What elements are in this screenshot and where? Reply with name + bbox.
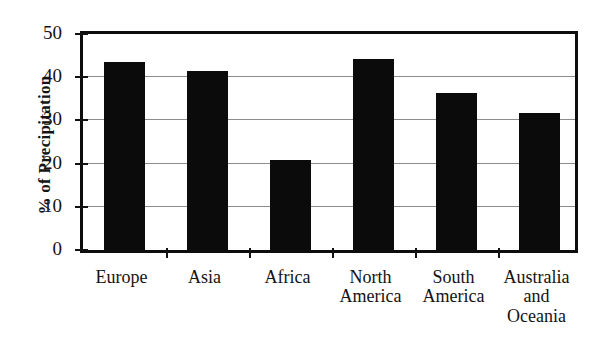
- y-axis-tick-label: 0: [53, 238, 63, 260]
- x-axis-tick: [166, 248, 168, 258]
- gridline: [83, 76, 575, 77]
- x-axis-tick: [332, 248, 334, 258]
- y-axis-tick: 30: [75, 119, 88, 121]
- category-label-line: America: [329, 287, 412, 306]
- y-axis-tick: 0: [75, 249, 88, 251]
- x-axis-category-label: AustraliaandOceania: [495, 268, 578, 326]
- x-axis-category-label: Europe: [80, 268, 163, 287]
- category-label-line: America: [412, 287, 495, 306]
- x-axis-category-label: Africa: [246, 268, 329, 287]
- gridline: [83, 119, 575, 120]
- category-label-line: Europe: [80, 268, 163, 287]
- bar-chart-figure: % of Precipitation 01020304050 EuropeAsi…: [0, 0, 599, 347]
- x-axis-tick: [498, 248, 500, 258]
- y-axis-tick: 50: [75, 33, 88, 35]
- bar[interactable]: [436, 93, 478, 250]
- bar[interactable]: [104, 62, 146, 250]
- bar[interactable]: [187, 71, 229, 250]
- y-axis-title: % of Precipitation: [35, 25, 55, 265]
- x-axis-category-label: NorthAmerica: [329, 268, 412, 307]
- y-axis-tick-label: 20: [43, 151, 62, 173]
- y-axis-tick-label: 30: [43, 108, 62, 130]
- bar[interactable]: [270, 160, 312, 250]
- gridline: [83, 163, 575, 164]
- x-axis-tick: [415, 248, 417, 258]
- category-label-line: Oceania: [495, 307, 578, 326]
- y-axis-tick-label: 40: [43, 65, 62, 87]
- x-axis-category-label: SouthAmerica: [412, 268, 495, 307]
- y-axis-tick: 40: [75, 76, 88, 78]
- x-axis-category-label: Asia: [163, 268, 246, 287]
- y-axis-tick: 20: [75, 163, 88, 165]
- y-axis-tick-label: 10: [43, 194, 62, 216]
- plot-area: 01020304050: [80, 31, 578, 253]
- category-label-line: Africa: [246, 268, 329, 287]
- bar[interactable]: [353, 59, 395, 250]
- x-axis-tick: [249, 248, 251, 258]
- category-label-line: Asia: [163, 268, 246, 287]
- bar[interactable]: [519, 113, 561, 250]
- category-label-line: Australia: [495, 268, 578, 287]
- y-axis-tick: 10: [75, 206, 88, 208]
- y-axis-tick-label: 50: [43, 22, 62, 44]
- category-label-line: North: [329, 268, 412, 287]
- category-label-line: South: [412, 268, 495, 287]
- category-label-line: and: [495, 287, 578, 306]
- gridline: [83, 206, 575, 207]
